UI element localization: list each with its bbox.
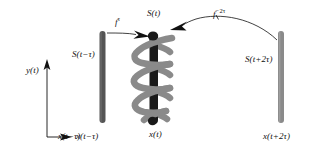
left-bar-axis-label: x(t−τ) xyxy=(76,132,98,141)
right-bar-state-label: S(t+2τ) xyxy=(245,55,273,64)
right-bar-axis-label: x(t+2τ) xyxy=(263,132,290,141)
left-state-bar-highlight xyxy=(100,32,102,122)
center-bar-state-label: S(t) xyxy=(147,9,160,18)
center-bar-bottom-node xyxy=(148,117,157,125)
forward-arrow-exponent: τ xyxy=(118,15,121,22)
center-state-structure xyxy=(134,31,172,125)
forward-arrow xyxy=(107,31,150,39)
right-state-bar-highlight xyxy=(279,32,281,122)
backward-arrow-head xyxy=(170,22,187,31)
y-axis-label: y(t) xyxy=(26,66,39,75)
figure-canvas: y(t) x(t−τ) S(t−τ) S(t) S(t+2τ) x(t−τ) x… xyxy=(0,0,317,151)
left-state-bar xyxy=(100,31,106,123)
coordinate-axes xyxy=(44,59,72,141)
backward-arrow-line xyxy=(183,16,277,40)
center-bar-axis-label: x(t) xyxy=(149,130,162,139)
backward-arrow-label: f−2τ xyxy=(213,8,225,19)
forward-arrow-label: fτ xyxy=(115,16,120,27)
center-bar-top-node xyxy=(148,31,158,40)
backward-arrow-exponent: −2τ xyxy=(216,7,226,14)
forward-arrow-line xyxy=(107,33,136,35)
left-bar-state-label: S(t−τ) xyxy=(72,50,95,59)
right-state-bar xyxy=(278,31,284,123)
